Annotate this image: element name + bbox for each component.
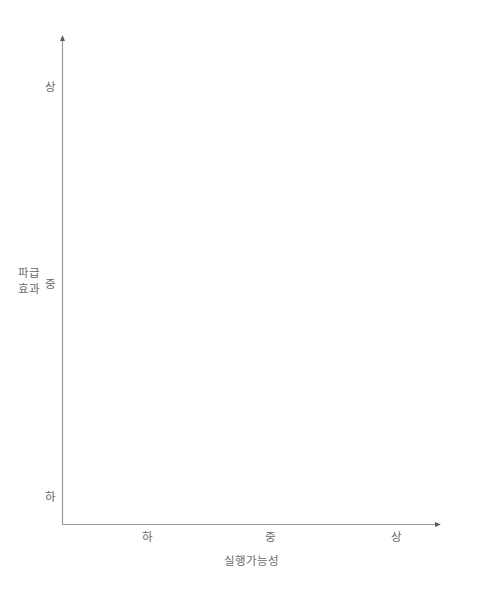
x-tick-mid: 중 <box>255 532 285 544</box>
y-axis-title-line-2: 효과 <box>18 282 44 298</box>
y-tick-high: 상 <box>34 82 56 94</box>
x-axis-title: 실행가능성 <box>196 554 306 570</box>
chart-page: 상 중 하 하 중 상 파급 효과 실행가능성 <box>0 0 479 600</box>
x-tick-high: 상 <box>381 532 411 544</box>
y-axis-title-line-1: 파급 <box>18 266 44 282</box>
y-tick-low: 하 <box>34 492 56 504</box>
matrix-chart: 상 중 하 하 중 상 파급 효과 실행가능성 <box>0 0 479 600</box>
x-tick-low: 하 <box>132 532 162 544</box>
y-axis-title: 파급 효과 <box>18 266 44 297</box>
plot-area[interactable] <box>63 33 444 524</box>
